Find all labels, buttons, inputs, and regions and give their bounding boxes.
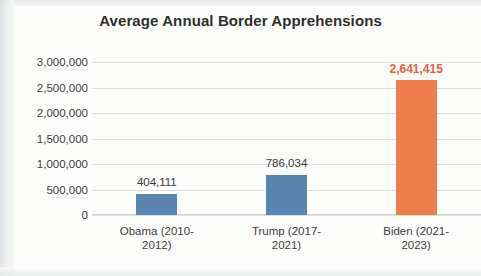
category-label-line: Biden (2021- bbox=[356, 224, 476, 238]
category-label-line: 2021) bbox=[227, 238, 347, 252]
y-axis-tick-labels: 3,000,0002,500,0002,000,0001,500,0001,00… bbox=[0, 62, 88, 215]
bar[interactable] bbox=[396, 80, 437, 215]
chart-screenshot: Average Annual Border Apprehensions 3,00… bbox=[0, 0, 481, 276]
y-axis-tick-label: 1,000,000 bbox=[2, 158, 88, 170]
y-axis-tick-label: 1,500,000 bbox=[2, 133, 88, 145]
category-label-line: Trump (2017- bbox=[227, 224, 347, 238]
bar[interactable] bbox=[136, 194, 177, 215]
category-label-line: 2012) bbox=[97, 238, 217, 252]
gridline bbox=[92, 215, 481, 216]
bar-value-label: 404,111 bbox=[97, 176, 217, 188]
x-axis-category-label: Trump (2017-2021) bbox=[227, 224, 347, 252]
category-label-line: 2023) bbox=[356, 238, 476, 252]
y-axis-tick-label: 2,500,000 bbox=[2, 82, 88, 94]
y-axis-tick-label: 3,000,000 bbox=[2, 56, 88, 68]
x-axis-category-labels: Obama (2010-2012)Trump (2017-2021)Biden … bbox=[92, 224, 481, 264]
chart-title: Average Annual Border Apprehensions bbox=[14, 12, 467, 29]
bar-value-label: 786,034 bbox=[227, 157, 347, 169]
y-axis-tick-label: 2,000,000 bbox=[2, 107, 88, 119]
bar-value-label: 2,641,415 bbox=[356, 62, 476, 76]
category-label-line: Obama (2010- bbox=[97, 224, 217, 238]
x-axis-category-label: Obama (2010-2012) bbox=[97, 224, 217, 252]
bar[interactable] bbox=[266, 175, 307, 215]
y-axis-tick-label: 0 bbox=[2, 209, 88, 221]
plot-area bbox=[92, 62, 481, 215]
x-axis-category-label: Biden (2021-2023) bbox=[356, 224, 476, 252]
y-axis-tick-label: 500,000 bbox=[2, 184, 88, 196]
